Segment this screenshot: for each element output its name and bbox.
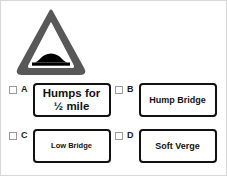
- answer-text-a-line1: Humps for: [43, 87, 101, 100]
- option-row-b[interactable]: B Hump Bridge: [115, 83, 217, 125]
- answer-text-c: Low Bridge: [49, 142, 94, 150]
- answer-text-d: Soft Verge: [153, 141, 202, 151]
- road-baseline: [32, 63, 70, 66]
- road-sign-image: [13, 7, 89, 77]
- answer-box-c[interactable]: Low Bridge: [33, 129, 111, 163]
- option-letter-d: D: [127, 129, 134, 141]
- answer-text-b: Hump Bridge: [147, 95, 208, 105]
- answer-box-b[interactable]: Hump Bridge: [139, 83, 217, 117]
- checkbox-option-d[interactable]: [115, 132, 123, 140]
- answer-box-d[interactable]: Soft Verge: [139, 129, 217, 163]
- road-hump-warning-triangle-icon: [13, 7, 89, 77]
- option-row-a[interactable]: A Humps for ½ mile: [9, 83, 111, 125]
- answer-box-a[interactable]: Humps for ½ mile: [33, 83, 111, 117]
- answer-text-a-line2: ½ mile: [43, 100, 101, 113]
- option-letter-c: C: [21, 129, 28, 141]
- answer-text-a: Humps for ½ mile: [41, 87, 103, 113]
- checkbox-option-c[interactable]: [9, 132, 17, 140]
- answer-options-grid: A Humps for ½ mile B Hump Bridge C Low B…: [1, 83, 227, 175]
- option-row-d[interactable]: D Soft Verge: [115, 129, 217, 171]
- option-letter-b: B: [127, 83, 134, 95]
- checkbox-option-b[interactable]: [115, 86, 123, 94]
- option-letter-a: A: [21, 83, 28, 95]
- quiz-question-page: A Humps for ½ mile B Hump Bridge C Low B…: [0, 0, 227, 176]
- checkbox-option-a[interactable]: [9, 86, 17, 94]
- option-row-c[interactable]: C Low Bridge: [9, 129, 111, 171]
